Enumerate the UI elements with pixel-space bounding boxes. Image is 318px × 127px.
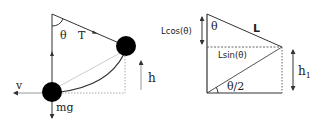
pendulum-diagram: θ T v mg h xyxy=(14,14,156,118)
velocity-label: v xyxy=(15,79,23,92)
bob-bottom xyxy=(42,82,62,102)
theta-arc xyxy=(52,19,63,26)
lcos-label: Lcos(θ) xyxy=(161,26,192,36)
theta-label: θ xyxy=(60,29,67,42)
hypotenuse-line xyxy=(207,14,282,47)
half-angle-label: θ/2 xyxy=(227,80,244,93)
tension-arrow-icon xyxy=(50,51,54,56)
weight-label: mg xyxy=(56,101,73,114)
hypotenuse-label: L xyxy=(253,22,260,35)
swing-arc xyxy=(60,54,124,92)
theta-label-right: θ xyxy=(211,20,218,33)
geometry-diagram: Lcos(θ) θ L Lsin(θ) θ/2 h1 xyxy=(161,14,311,93)
lsin-label: Lsin(θ) xyxy=(218,50,247,60)
bob-displaced xyxy=(116,36,136,56)
half-angle-arc xyxy=(216,87,218,93)
height-label: h xyxy=(148,71,156,85)
tension-direction-icon xyxy=(92,31,98,35)
h1-label: h1 xyxy=(298,64,311,80)
tension-label: T xyxy=(78,29,86,42)
pendulum-figure: θ T v mg h Lcos(θ) θ L Lsin(θ) θ/2 h1 xyxy=(0,0,318,127)
